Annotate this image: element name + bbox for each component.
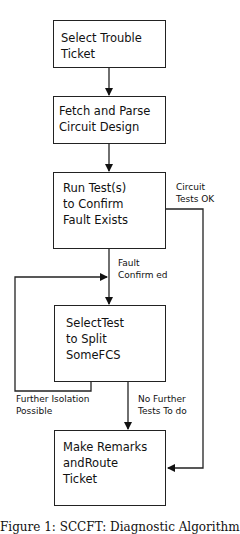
node-text: SomeFCS [66, 347, 165, 363]
label-text: Tests To do [138, 405, 187, 417]
node-text: Ticket [63, 471, 165, 487]
node-select-test: SelectTest to Split SomeFCS [54, 305, 166, 382]
node-text: Circuit Design [59, 119, 165, 135]
node-text: andRoute [63, 455, 165, 471]
node-text: Fetch and Parse [59, 103, 165, 119]
label-text: Fault [118, 257, 168, 269]
label-fault-confirmed: Fault Confirm ed [118, 257, 168, 281]
node-fetch-parse-design: Fetch and Parse Circuit Design [53, 96, 166, 144]
node-text: to Confirm [63, 196, 165, 212]
label-text: Confirm ed [118, 269, 168, 281]
node-text: Run Test(s) [63, 180, 165, 196]
node-make-remarks: Make Remarks andRoute Ticket [54, 430, 166, 506]
node-text: Make Remarks [63, 439, 165, 455]
arrow-circuit-ok [166, 209, 203, 468]
node-text: Fault Exists [63, 212, 165, 228]
label-text: Possible [16, 405, 90, 417]
label-further-isolation: Further Isolation Possible [16, 393, 90, 417]
node-select-trouble-ticket: Select Trouble Ticket [53, 20, 166, 68]
node-run-tests: Run Test(s) to Confirm Fault Exists [53, 172, 166, 249]
label-text: Tests OK [176, 193, 214, 205]
label-circuit-tests-ok: Circuit Tests OK [176, 181, 214, 205]
label-text: No Further [138, 393, 187, 405]
label-no-further-tests: No Further Tests To do [138, 393, 187, 417]
label-text: Circuit [176, 181, 214, 193]
node-text: SelectTest [66, 315, 165, 331]
label-text: Further Isolation [16, 393, 90, 405]
node-text: to Split [66, 331, 165, 347]
node-text: Ticket [61, 46, 165, 62]
figure-caption: Figure 1: SCCFT: Diagnostic Algorithm [0, 520, 232, 534]
node-text: Select Trouble [61, 30, 165, 46]
